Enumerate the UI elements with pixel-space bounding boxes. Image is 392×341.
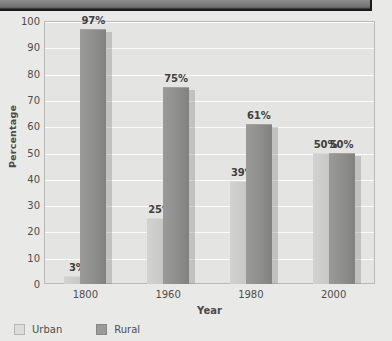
legend-entry-rural[interactable]: Rural bbox=[96, 324, 140, 335]
bar-rural-1960[interactable] bbox=[163, 87, 189, 284]
bar-chart-figure: Percentage 0102030405060708090100 3%97%2… bbox=[0, 13, 392, 341]
y-axis-tick-label: 30 bbox=[8, 200, 40, 211]
bar-value-label: 61% bbox=[247, 110, 271, 121]
y-axis-tick-label: 10 bbox=[8, 252, 40, 263]
bar-shadow bbox=[355, 156, 361, 285]
legend-label-urban: Urban bbox=[32, 324, 62, 335]
bar-rural-1980[interactable] bbox=[246, 124, 272, 284]
bar-shadow bbox=[189, 90, 195, 284]
y-axis-tick-label: 80 bbox=[8, 68, 40, 79]
y-axis-tick-label: 60 bbox=[8, 121, 40, 132]
chart-legend: Urban Rural bbox=[14, 324, 140, 335]
x-axis-title: Year bbox=[44, 305, 375, 316]
y-axis-title: Percentage bbox=[7, 97, 18, 177]
y-axis-tick-label: 100 bbox=[8, 16, 40, 27]
bar-value-label: 97% bbox=[81, 15, 105, 26]
bar-value-label: 50% bbox=[330, 139, 354, 150]
x-axis-tick-label: 1960 bbox=[155, 289, 180, 300]
y-axis-tick-label: 0 bbox=[8, 279, 40, 290]
y-axis-tick-label: 50 bbox=[8, 147, 40, 158]
window-header-band bbox=[0, 0, 372, 11]
legend-label-rural: Rural bbox=[114, 324, 140, 335]
legend-entry-urban[interactable]: Urban bbox=[14, 324, 62, 335]
legend-swatch-urban-icon bbox=[14, 324, 25, 335]
bar-shadow bbox=[272, 127, 278, 284]
x-axis-tick-label: 1980 bbox=[238, 289, 263, 300]
legend-swatch-rural-icon bbox=[96, 324, 107, 335]
y-axis-tick-label: 20 bbox=[8, 226, 40, 237]
bar-value-label: 75% bbox=[164, 73, 188, 84]
x-axis-tick-label: 2000 bbox=[321, 289, 346, 300]
bar-rural-2000[interactable] bbox=[329, 153, 355, 285]
bar-shadow bbox=[106, 32, 112, 284]
y-axis-tick-label: 40 bbox=[8, 173, 40, 184]
x-axis-tick-label: 1800 bbox=[73, 289, 98, 300]
bar-rural-1800[interactable] bbox=[80, 29, 106, 284]
y-axis-tick-label: 70 bbox=[8, 94, 40, 105]
y-axis-tick-label: 90 bbox=[8, 42, 40, 53]
